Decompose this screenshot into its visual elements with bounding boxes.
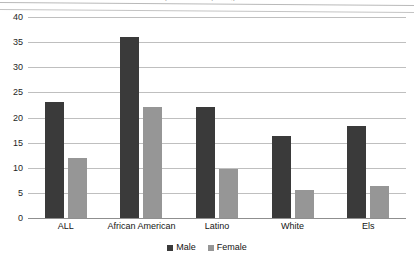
x-axis-labels: ALLAfrican AmericanLatinoWhiteEls — [28, 222, 406, 232]
bar-female — [68, 158, 87, 218]
axis-baseline: 0 — [28, 218, 406, 219]
y-axis-tick-label: 25 — [13, 88, 23, 97]
plot-area: 0510152025303540 — [28, 17, 406, 218]
bars-layer — [28, 17, 406, 218]
y-axis-tick-label: 15 — [13, 138, 23, 147]
x-axis-category-label: Els — [330, 222, 406, 232]
x-axis-category-label: White — [255, 222, 331, 232]
bar-male — [120, 37, 139, 218]
y-axis-tick-label: 40 — [13, 13, 23, 22]
bar-male — [347, 126, 366, 218]
bar-female — [370, 186, 389, 218]
bar-group — [104, 17, 180, 218]
y-axis-tick-label: 30 — [13, 63, 23, 72]
bar-chart: by race/ethnicity and gender 05101520253… — [0, 0, 414, 259]
y-axis-tick-label: 10 — [13, 163, 23, 172]
legend-label: Male — [176, 243, 196, 252]
bar-male — [272, 136, 291, 218]
x-axis-category-label: ALL — [28, 222, 104, 232]
legend-label: Female — [217, 243, 247, 252]
legend-swatch-icon — [167, 245, 173, 251]
y-axis-tick-label: 20 — [13, 113, 23, 122]
bar-male — [196, 107, 215, 218]
bar-female — [219, 169, 238, 218]
bar-female — [295, 190, 314, 218]
scan-artifact-line — [0, 9, 414, 13]
bar-group — [179, 17, 255, 218]
bar-female — [143, 107, 162, 218]
scan-artifact-line — [0, 2, 414, 6]
chart-legend: MaleFemale — [0, 243, 414, 252]
legend-swatch-icon — [208, 245, 214, 251]
bar-group — [255, 17, 331, 218]
y-axis-tick-label: 35 — [13, 38, 23, 47]
y-axis-tick-label: 0 — [18, 214, 23, 223]
chart-title-cropped: by race/ethnicity and gender — [0, 0, 414, 1]
bar-group — [28, 17, 104, 218]
x-axis-category-label: African American — [104, 222, 180, 232]
legend-item-male[interactable]: Male — [167, 243, 196, 252]
legend-item-female[interactable]: Female — [208, 243, 247, 252]
x-axis-category-label: Latino — [179, 222, 255, 232]
bar-group — [330, 17, 406, 218]
y-axis-tick-label: 5 — [18, 188, 23, 197]
bar-male — [45, 102, 64, 218]
